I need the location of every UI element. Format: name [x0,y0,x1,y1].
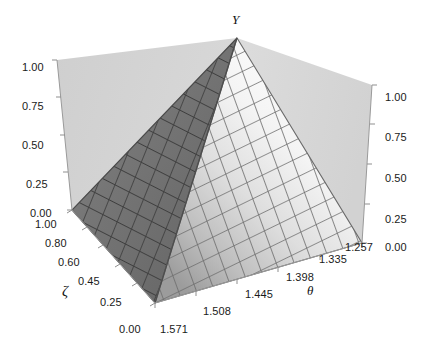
zeta-axis-title: ζ [62,283,68,300]
theta-tick-label: 1.257 [345,241,373,253]
zeta-tick-label: 0.80 [45,237,67,249]
zeta-tick-label: 1.00 [35,218,57,230]
theta-axis-title: θ [307,283,313,299]
theta-tick-label: 1.398 [286,271,314,283]
left-tick-label: 0.25 [26,178,48,190]
theta-tick-label: 1.445 [245,288,273,300]
zeta-tick-label: 0.25 [100,296,122,308]
zeta-tick-label: 0.60 [58,256,80,268]
right-tick-label: 0.25 [385,213,407,225]
left-tick-label: 0.50 [22,139,44,151]
left-tick-label: 0.75 [22,100,44,112]
right-tick-label: 0.00 [385,241,407,253]
vertical-axis-title: Y [232,12,239,28]
zeta-tick-label: 0.00 [119,323,141,335]
theta-tick-label: 1.508 [203,305,231,317]
theta-tick-label: 1.335 [319,253,347,265]
right-tick-label: 0.75 [385,131,407,143]
theta-tick-label: 1.571 [160,323,188,335]
zeta-tick-label: 0.45 [78,275,100,287]
left-tick-label: 1.00 [22,61,44,73]
right-tick-label: 0.50 [385,172,407,184]
right-tick-label: 1.00 [385,91,407,103]
